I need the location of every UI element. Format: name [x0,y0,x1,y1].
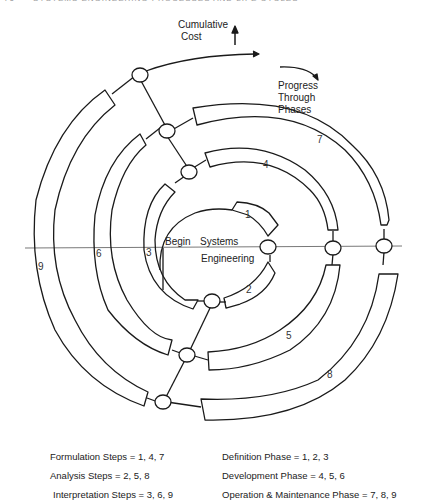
node-circle [181,165,197,179]
cost-label-line1: Cumulative [178,19,228,31]
progress-arrow-icon [280,67,318,80]
cost-label-line2: Cost [178,31,228,43]
progress-label: Progress Through Phases [278,80,318,116]
step-number-6: 6 [96,248,102,259]
node-circle [132,68,148,82]
node-circle [260,240,276,254]
cost-arrow-icon [232,26,238,45]
legend-analysis: Analysis Steps = 2, 5, 8 [50,470,150,481]
step-number-7: 7 [317,134,323,145]
step-number-2: 2 [246,284,252,295]
step-9-band [34,76,158,406]
step-8-band [167,274,398,420]
progress-label-line3: Phases [278,104,318,116]
legend-definition-phase: Definition Phase = 1, 2, 3 [222,451,328,462]
legend-development-phase: Development Phase = 4, 5, 6 [222,470,345,481]
spoke-lower [190,306,211,350]
node-circle [376,239,392,253]
progress-label-line1: Progress [278,80,318,92]
spoke-upper [140,79,166,127]
spiral-lead-arc [146,54,255,71]
progress-label-line2: Through [278,92,318,104]
node-circle [155,395,171,409]
node-circle [159,124,175,138]
node-circle [325,241,341,255]
step-number-1: 1 [245,209,251,220]
step-number-4: 4 [263,159,269,170]
step-number-9: 9 [38,261,44,272]
step-number-3: 3 [146,247,152,258]
cost-label: Cumulative Cost [178,19,228,43]
legend-om-phase: Operation & Maintenance Phase = 7, 8, 9 [222,489,397,500]
legend-interpretation: Interpretation Steps = 3, 6, 9 [53,489,173,500]
node-circle [204,294,220,308]
step-number-5: 5 [286,330,292,341]
center-engineering-label: Engineering [201,253,254,265]
node-circle [179,348,195,362]
step-5-band [191,265,340,370]
step-7-band [172,104,389,225]
center-systems-label: Systems [200,236,238,248]
legend-formulation: Formulation Steps = 1, 4, 7 [50,451,164,462]
center-begin-label: Begin [165,236,191,248]
step-number-8: 8 [327,369,333,380]
